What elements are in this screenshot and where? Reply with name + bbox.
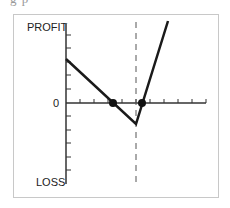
loss-label: LOSS	[36, 176, 65, 188]
payoff-diagram: PROFIT 0 LOSS	[0, 0, 230, 208]
break-even-point-left	[109, 99, 117, 107]
zero-label: 0	[53, 97, 59, 109]
break-even-point-right	[138, 99, 146, 107]
payoff-line	[66, 21, 168, 124]
profit-label: PROFIT	[27, 21, 68, 33]
